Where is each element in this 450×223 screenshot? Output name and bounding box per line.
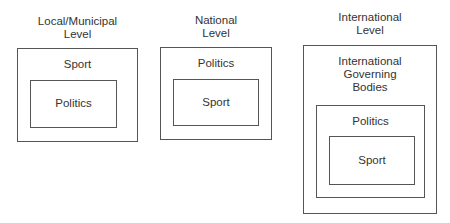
national-inner-box: Sport: [173, 79, 259, 126]
local-outer-box: Sport Politics: [17, 48, 138, 142]
national-outer-label: Politics: [161, 57, 271, 70]
title-line: National: [160, 14, 272, 27]
label-line: International: [304, 55, 436, 68]
title-line: Local/Municipal: [17, 15, 138, 28]
label-line: Bodies: [304, 81, 436, 94]
international-inner-label: Sport: [330, 154, 414, 167]
international-middle-label: Politics: [317, 115, 424, 128]
local-inner-box: Politics: [30, 80, 117, 128]
label-line: Governing: [304, 68, 436, 81]
national-outer-box: Politics Sport: [160, 47, 272, 140]
international-middle-box: Politics Sport: [316, 105, 425, 198]
local-outer-label: Sport: [18, 58, 137, 71]
international-inner-box: Sport: [329, 136, 415, 185]
title-line: Level: [160, 27, 272, 40]
title-line: Level: [303, 24, 437, 37]
local-inner-label: Politics: [31, 97, 116, 110]
international-level-title: International Level: [303, 11, 437, 37]
title-line: International: [303, 11, 437, 24]
title-line: Level: [17, 28, 138, 41]
international-governing-bodies-label: International Governing Bodies: [304, 55, 436, 94]
national-level-title: National Level: [160, 14, 272, 40]
international-outer-box: International Governing Bodies Politics …: [303, 45, 437, 214]
local-level-title: Local/Municipal Level: [17, 15, 138, 41]
national-inner-label: Sport: [174, 96, 258, 109]
